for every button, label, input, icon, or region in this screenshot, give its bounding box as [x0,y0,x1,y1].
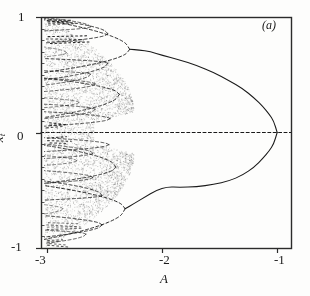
figure-container: 1 0 -1 -3 -2 -1 A xt (a) [0,0,310,296]
y-axis-title-subscript: t [0,134,7,137]
x-axis-title: A [160,271,168,287]
x-tick-label-left: -3 [35,252,46,268]
x-tick-label-middle: -2 [159,252,170,268]
y-tick-label-middle: 0 [17,128,24,144]
panel-label: (a) [262,18,276,33]
x-tick-label-right: -1 [274,252,285,268]
y-tick-label-top: 1 [18,9,25,25]
bifurcation-diagram-canvas [0,0,310,296]
y-axis-title: xt [0,134,7,142]
y-tick-label-bottom: -1 [11,239,22,255]
y-axis-title-base: x [0,136,6,142]
